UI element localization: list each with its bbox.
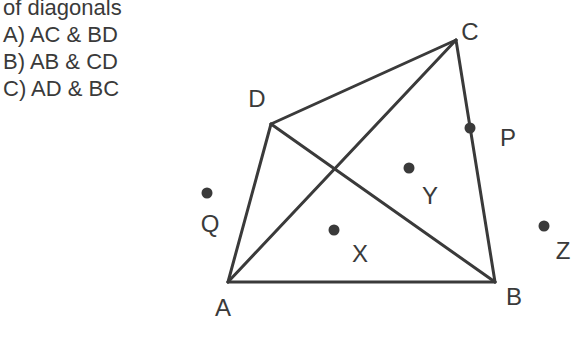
vertex-b-label: B [506, 283, 522, 310]
vertex-d-label: D [248, 85, 265, 112]
point-p-label: P [500, 124, 516, 151]
point-z-label: Z [556, 237, 571, 264]
side-cd [271, 40, 456, 124]
point-x-label: X [352, 240, 368, 267]
diagonal-bd [271, 124, 495, 282]
side-bc [456, 40, 495, 282]
vertex-c-label: C [461, 18, 478, 45]
point-z-dot [539, 221, 550, 232]
point-q-label: Q [201, 210, 220, 237]
point-p-dot [465, 123, 476, 134]
point-y-dot [404, 163, 415, 174]
point-x-dot [329, 225, 340, 236]
vertex-a-label: A [215, 294, 231, 321]
point-q-dot [202, 188, 213, 199]
quadrilateral-figure: C D A B P Y Q X Z [0, 0, 580, 345]
point-y-label: Y [422, 182, 438, 209]
